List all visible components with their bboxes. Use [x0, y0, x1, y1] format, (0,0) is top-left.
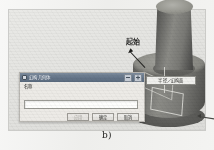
cancel-button[interactable]: 取消	[117, 113, 139, 121]
start-annotation-label: 起始	[126, 38, 141, 46]
apply-button[interactable]: 应用	[67, 113, 89, 121]
cad-3d-viewport[interactable]: 半径／幻构面 起始 幻构几何体 名称 应用 确定 取消	[9, 10, 205, 130]
figure-caption: b)	[0, 130, 214, 140]
bottom-right-leader-arrow-icon	[197, 114, 201, 118]
minimize-icon[interactable]	[124, 74, 132, 82]
neck-cylinder-body[interactable]	[155, 6, 193, 70]
dialog-button-row: 应用 确定 取消	[24, 113, 140, 121]
construct-geometry-dialog[interactable]: 幻构几何体 名称 应用 确定 取消	[19, 72, 145, 122]
close-icon[interactable]	[134, 74, 142, 82]
scanned-page-background: 半径／幻构面 起始 幻构几何体 名称 应用 确定 取消	[0, 0, 214, 150]
face-callout-label: 半径／幻构面	[146, 76, 196, 85]
dialog-app-icon	[22, 75, 27, 80]
dialog-title: 幻构几何体	[29, 75, 122, 80]
dialog-body: 名称 应用 确定 取消	[20, 82, 144, 121]
ok-button[interactable]: 确定	[92, 113, 114, 121]
dialog-titlebar[interactable]: 幻构几何体	[20, 73, 144, 82]
name-field-label: 名称	[24, 84, 140, 90]
name-input[interactable]	[24, 100, 138, 109]
